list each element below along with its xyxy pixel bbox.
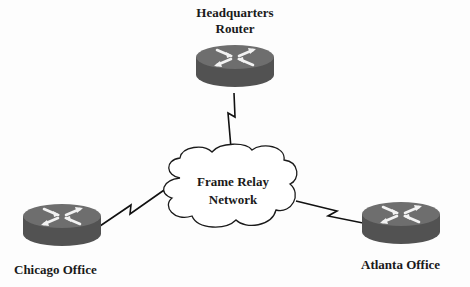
link-atlanta-cloud bbox=[296, 201, 363, 223]
diagram-graphics bbox=[0, 0, 470, 287]
atlanta-office-label: Atlanta Office bbox=[361, 257, 461, 273]
chicago-office-label: Chicago Office bbox=[14, 262, 124, 278]
headquarters-label-line2: Router bbox=[185, 21, 285, 37]
router-icon-headquarters bbox=[196, 45, 274, 87]
link-chicago-cloud bbox=[100, 188, 167, 226]
frame-relay-network-label: Frame Relay Network bbox=[183, 173, 283, 209]
network-diagram: Headquarters Router Frame Relay Network … bbox=[0, 0, 470, 287]
link-headquarters-cloud bbox=[228, 93, 235, 148]
router-icon-atlanta bbox=[362, 202, 440, 244]
cloud-label-line1: Frame Relay bbox=[183, 173, 283, 191]
headquarters-label-line1: Headquarters bbox=[185, 5, 285, 21]
cloud-label-line2: Network bbox=[183, 191, 283, 209]
router-icon-chicago bbox=[23, 204, 101, 246]
headquarters-router-label: Headquarters Router bbox=[185, 5, 285, 37]
